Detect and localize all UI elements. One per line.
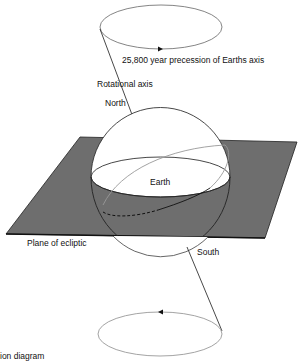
precession-label: 25,800 year precession of Earths axis (122, 56, 264, 65)
plane-label: Plane of ecliptic (27, 239, 87, 248)
north-label: North (105, 99, 126, 108)
caption-fragment: ion diagram (0, 352, 44, 361)
bottom-precession-circle (98, 312, 222, 356)
bottom-arrow-icon (158, 310, 163, 315)
top-precession-circle (100, 5, 222, 49)
top-arrow-icon (158, 47, 163, 52)
earth-below-plane (113, 236, 208, 257)
south-label: South (197, 248, 219, 257)
rotational-axis-label: Rotational axis (97, 80, 153, 89)
earth-label: Earth (150, 178, 170, 187)
